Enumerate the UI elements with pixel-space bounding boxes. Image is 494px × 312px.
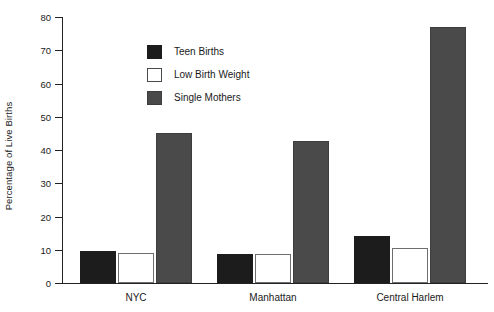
- y-axis-tick: [55, 84, 62, 85]
- y-axis-tick: [55, 183, 62, 184]
- y-axis-tick-label: 10: [21, 244, 51, 255]
- y-axis-tick: [55, 117, 62, 118]
- legend-item-label: Low Birth Weight: [174, 69, 249, 80]
- y-axis-tick-label: 80: [21, 12, 51, 23]
- y-axis-tick-label: 50: [21, 111, 51, 122]
- x-axis-group-label: NYC: [125, 292, 146, 303]
- legend-item: Teen Births: [147, 40, 317, 63]
- y-axis-tick-label: 40: [21, 145, 51, 156]
- y-axis-tick-label: 30: [21, 178, 51, 189]
- outlined-white-square-icon: [147, 68, 162, 82]
- y-axis-tick: [55, 217, 62, 218]
- x-axis-line: [62, 283, 488, 284]
- y-axis-tick: [55, 150, 62, 151]
- bar-chart: Percentage of Live Births 01020304050607…: [0, 0, 494, 312]
- y-axis-tick-label: 70: [21, 45, 51, 56]
- filled-black-square-icon: [147, 45, 162, 59]
- bar-teen-births-manhattan: [217, 254, 253, 283]
- bar-single-mothers-manhattan: [293, 141, 329, 283]
- x-axis-group-label: Central Harlem: [376, 292, 443, 303]
- legend-item: Low Birth Weight: [147, 63, 317, 86]
- x-axis-group-label: Manhattan: [249, 292, 296, 303]
- bar-single-mothers-central-harlem: [430, 27, 466, 283]
- legend-item-label: Single Mothers: [174, 92, 241, 103]
- legend-item-label: Teen Births: [174, 46, 224, 57]
- y-axis-tick: [55, 50, 62, 51]
- bar-low-birth-weight-central-harlem: [392, 248, 428, 283]
- y-axis-line: [62, 17, 63, 284]
- y-axis-tick-label: 20: [21, 211, 51, 222]
- y-axis-tick: [55, 250, 62, 251]
- legend-item: Single Mothers: [147, 86, 317, 109]
- bar-single-mothers-nyc: [156, 133, 192, 283]
- y-axis-tick: [55, 283, 62, 284]
- filled-gray-square-icon: [147, 91, 162, 105]
- y-axis-tick-label: 60: [21, 78, 51, 89]
- bar-teen-births-nyc: [80, 251, 116, 283]
- y-axis-title: Percentage of Live Births: [0, 0, 18, 312]
- bar-low-birth-weight-nyc: [118, 253, 154, 283]
- bar-low-birth-weight-manhattan: [255, 254, 291, 283]
- y-axis-tick-label: 0: [21, 278, 51, 289]
- y-axis-tick: [55, 17, 62, 18]
- chart-legend: Teen BirthsLow Birth WeightSingle Mother…: [147, 40, 317, 109]
- bar-teen-births-central-harlem: [354, 236, 390, 283]
